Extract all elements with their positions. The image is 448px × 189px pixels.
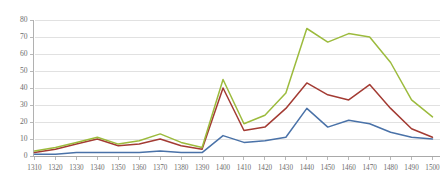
x-axis-tick-label: 1500 [422, 165, 444, 172]
x-axis-tick-label: 1320 [44, 165, 66, 172]
y-axis-tick-label: 50 [20, 67, 28, 75]
x-axis-tick-label: 1440 [296, 165, 318, 172]
x-axis-tick-label: 1480 [380, 165, 402, 172]
line-series-red [35, 83, 433, 153]
y-axis-tick-label: 10 [20, 135, 28, 143]
x-axis-tick-label: 1330 [65, 165, 87, 172]
x-axis-tick-label: 1340 [86, 165, 108, 172]
x-axis-tick-label: 1350 [107, 165, 129, 172]
y-axis-tick-label: 30 [20, 101, 28, 109]
line-series-blue [35, 108, 433, 154]
line-series-green [35, 29, 433, 151]
gridlines [35, 20, 441, 156]
x-axis-tick-label: 1360 [128, 165, 150, 172]
y-axis-tick-label: 40 [20, 84, 28, 92]
y-axis-tick-label: 60 [20, 50, 28, 58]
x-axis-tick-label: 1470 [359, 165, 381, 172]
x-axis-tick-label: 1410 [233, 165, 255, 172]
x-axis-tick-label: 1400 [212, 165, 234, 172]
x-axis-tick-label: 1380 [170, 165, 192, 172]
y-axis-tick-label: 20 [20, 118, 28, 126]
x-axis-tick-label: 1390 [191, 165, 213, 172]
x-axis-tick-label: 1490 [401, 165, 423, 172]
x-axis-tick-label: 1460 [338, 165, 360, 172]
y-axis-tick-label: 70 [20, 33, 28, 41]
chart-plot-area [0, 0, 448, 189]
data-series-lines [35, 29, 433, 155]
x-axis-tick-label: 1450 [317, 165, 339, 172]
y-axis-tick-label: 80 [20, 16, 28, 24]
x-axis-tick-label: 1310 [24, 165, 46, 172]
x-axis-tick-label: 1420 [254, 165, 276, 172]
x-axis-tick-label: 1430 [275, 165, 297, 172]
y-axis-tick-label: 0 [24, 152, 28, 160]
line-chart: 01020304050607080 1310132013301340135013… [0, 0, 448, 189]
x-axis-tick-label: 1370 [149, 165, 171, 172]
x-axis-ticks [35, 156, 433, 160]
